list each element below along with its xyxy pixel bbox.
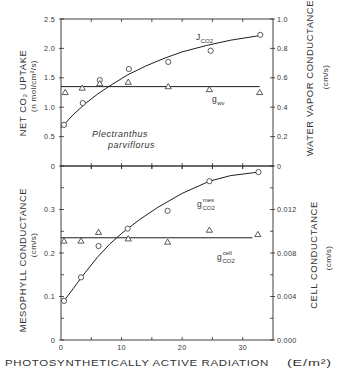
data-point-circle [166,59,171,64]
bottom-left-axis-units: (cm/s) [29,233,38,258]
y-right-tick-label: 0.008 [277,249,297,258]
y-left-tick-label: 0.5 [44,132,55,141]
x-axis-title: PHOTOSYNTHETICALLY ACTIVE RADIATION [5,357,269,368]
data-point-triangle [165,239,171,244]
y-right-tick-label: 1.0 [277,15,288,24]
data-point-triangle [257,89,263,94]
y-left-tick-label: 1.0 [44,103,55,112]
y-right-tick-label: 0.6 [277,73,288,82]
data-point-triangle [61,238,67,243]
data-point-triangle [125,236,131,241]
y-right-tick-label: 0.2 [277,132,288,141]
x-tick-label: 20 [178,343,187,352]
x-tick-label: 0 [59,343,63,352]
chart-canvas: NET CO₂ UPTAKE (n mol/cm²/s) WATER VAPOR… [0,0,343,374]
bottom-right-axis-title: CELL CONDUCTANCE [308,201,319,309]
fit-curve [64,172,259,301]
bottom-panel: 010203000.10.20.30.0000.0040.0080.012gme… [44,166,296,352]
data-point-circle [61,122,66,127]
series-g-wv: gwv [61,79,263,105]
y-right-tick-label: 0.8 [277,44,288,53]
y-right-tick-label: 0.4 [277,103,288,112]
data-point-circle [96,243,101,248]
y-left-tick-label: 0 [51,336,55,345]
figure: NET CO₂ UPTAKE (n mol/cm²/s) WATER VAPOR… [0,0,343,374]
top-right-axis-units: (cm/s) [321,65,330,90]
data-point-triangle [95,229,101,234]
series-label: gwv [212,94,225,106]
top-right-axis-title: WATER VAPOR CONDUCTANCE [304,0,315,156]
series-label: gmesCO2 [197,197,216,211]
data-point-circle [78,275,83,280]
bottom-right-axis-units: (cm/s) [324,246,333,271]
top-left-axis-units: (n mol/cm²/s) [29,60,38,112]
data-point-circle [207,179,212,184]
y-left-tick-label: 1.5 [44,73,55,82]
bottom-plot-frame [61,166,273,340]
data-point-circle [61,298,66,303]
y-left-tick-label: 0.1 [44,292,55,301]
series-g-co2-mes: gmesCO2 [61,169,261,303]
y-right-tick-label: 0.012 [277,205,297,214]
x-tick-label: 10 [117,343,126,352]
species-name-line2: parviflorus [107,140,155,150]
data-point-circle [208,48,213,53]
y-right-tick-label: 0.004 [277,292,297,301]
data-point-circle [80,100,85,105]
top-left-axis-title: NET CO₂ UPTAKE [17,50,28,137]
data-point-circle [126,66,131,71]
x-tick-label: 30 [238,343,247,352]
y-left-tick-label: 2.5 [44,15,55,24]
data-point-triangle [125,79,131,84]
species-name-line1: Plectranthus [92,129,148,139]
series-label: gcellCO2 [217,250,236,264]
y-left-tick-label: 0.3 [44,205,55,214]
data-point-triangle [255,231,261,236]
top-plot-frame [61,19,273,166]
series-j-co2: JCO2 [61,32,263,128]
x-axis-units: (E/m²) [287,357,332,368]
data-point-triangle [206,227,212,232]
data-point-circle [256,169,261,174]
y-left-tick-label: 2.0 [44,44,55,53]
top-panel: 00.51.01.52.02.500.20.40.60.81.0JCO2gwv [44,15,288,171]
plot-layer: 00.51.01.52.02.500.20.40.60.81.0JCO2gwv0… [44,15,296,353]
data-point-triangle [79,85,85,90]
data-point-triangle [78,238,84,243]
data-point-triangle [206,86,212,91]
y-right-tick-label: 0 [277,162,281,171]
fit-curve [61,36,260,128]
series-g-co2-cell: gcellCO2 [61,227,261,263]
series-label: JCO2 [196,32,214,44]
y-left-tick-label: 0.2 [44,249,55,258]
y-right-tick-label: 0.000 [277,336,297,345]
data-point-circle [125,226,130,231]
data-point-circle [258,32,263,37]
data-point-circle [165,208,170,213]
data-point-triangle [62,89,68,94]
bottom-left-axis-title: MESOPHYLL CONDUCTANCE [17,188,28,332]
data-point-triangle [165,84,171,89]
y-left-tick-label: 0 [51,162,55,171]
